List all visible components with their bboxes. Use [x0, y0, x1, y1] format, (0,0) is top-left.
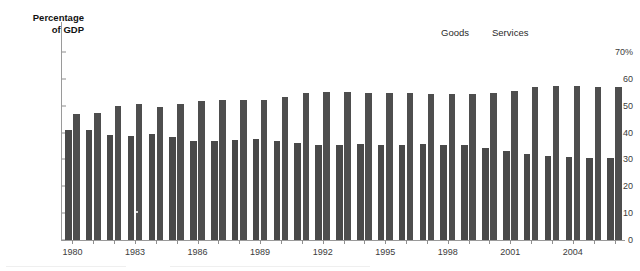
bar-goods-1994 [357, 144, 364, 240]
bar-services-1985 [177, 104, 184, 240]
bar-services-1999 [469, 94, 476, 240]
bar-services-1981 [94, 113, 101, 240]
bar-goods-2000 [482, 148, 489, 240]
bar-goods-1996 [399, 145, 406, 240]
bar-services-1993 [344, 92, 351, 240]
bar-goods-1986 [190, 141, 197, 240]
bar-services-1988 [240, 100, 247, 240]
bar-goods-2006 [607, 158, 614, 240]
bar-services-1986 [198, 101, 205, 240]
bar-services-1992 [323, 92, 330, 240]
bar-services-1997 [428, 94, 435, 240]
bar-services-2002 [532, 87, 539, 240]
artifact-smudge [6, 266, 126, 267]
bar-services-2005 [595, 87, 602, 240]
bar-goods-1990 [274, 141, 281, 240]
bar-goods-1987 [211, 141, 218, 240]
bar-goods-1981 [86, 130, 93, 240]
bar-goods-2002 [524, 154, 531, 240]
bar-services-1994 [365, 93, 372, 240]
bar-goods-1984 [149, 134, 156, 240]
bar-goods-1988 [232, 140, 239, 240]
bar-goods-1985 [169, 137, 176, 240]
bar-goods-2001 [503, 151, 510, 240]
bar-services-1983 [136, 104, 143, 240]
bar-goods-1992 [315, 145, 322, 240]
bar-goods-1997 [420, 144, 427, 240]
bar-goods-1989 [253, 139, 260, 240]
bar-goods-2004 [566, 157, 573, 240]
bar-services-1995 [386, 93, 393, 240]
bar-services-1987 [219, 100, 226, 240]
bar-chart: Percentage of GDP Goods Services 0102030… [0, 0, 640, 271]
bar-goods-1999 [461, 145, 468, 240]
bar-services-2001 [511, 91, 518, 240]
bar-goods-2005 [586, 158, 593, 240]
bars-layer [0, 0, 640, 271]
bar-services-1980 [73, 114, 80, 240]
bar-goods-1993 [336, 145, 343, 240]
bar-goods-1982 [107, 135, 114, 240]
bar-services-1989 [261, 100, 268, 240]
bar-services-1982 [115, 106, 122, 240]
bar-services-2000 [490, 93, 497, 240]
bar-goods-1983 [128, 136, 135, 240]
bar-services-2004 [574, 86, 581, 240]
bar-services-1990 [282, 97, 289, 240]
bar-goods-2003 [545, 156, 552, 240]
bar-goods-1998 [440, 145, 447, 240]
artifact-smudge [170, 266, 370, 267]
bar-services-2006 [615, 87, 622, 240]
bar-goods-1991 [294, 143, 301, 240]
artifact-speck [136, 211, 138, 213]
bar-services-1998 [449, 94, 456, 240]
bar-services-2003 [553, 86, 560, 240]
bar-services-1984 [157, 107, 164, 240]
bar-services-1991 [303, 93, 310, 240]
bar-goods-1995 [378, 145, 385, 240]
bar-goods-1980 [65, 130, 72, 240]
bar-services-1996 [407, 93, 414, 240]
